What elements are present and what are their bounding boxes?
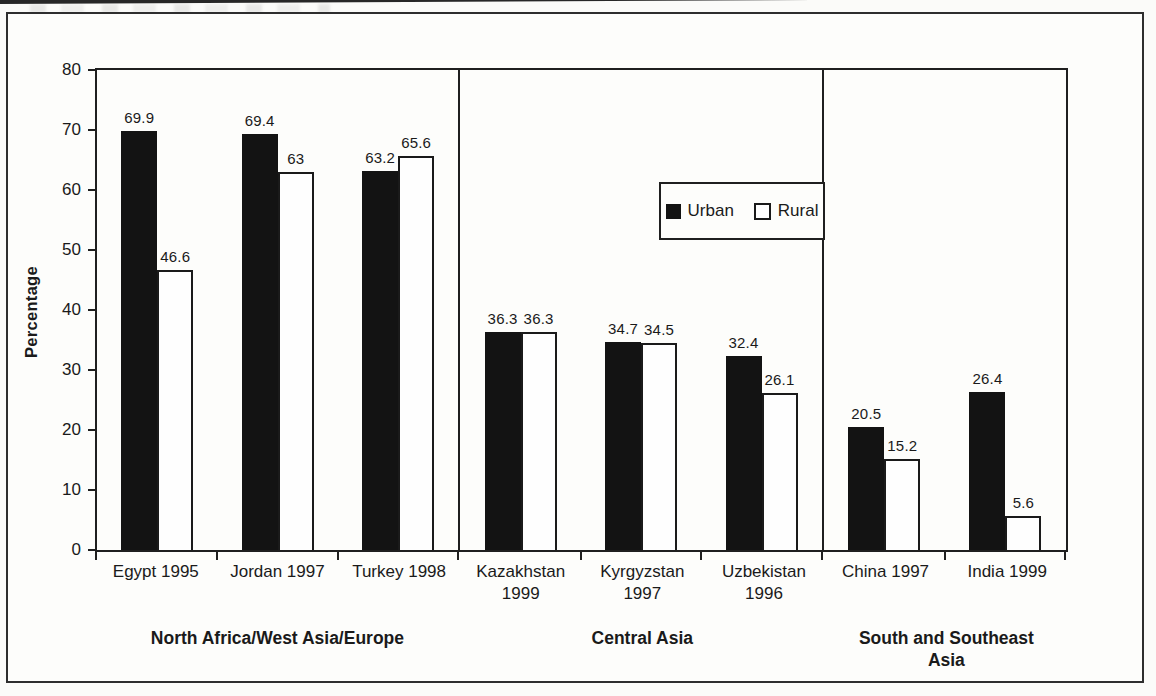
- bar-value-label: 63: [287, 150, 304, 167]
- y-axis-tick: 20: [35, 420, 97, 440]
- y-axis-tick: 60: [35, 180, 97, 200]
- urban-bar-wrap: 36.3: [485, 70, 521, 550]
- urban-bar-wrap: 69.9: [121, 70, 157, 550]
- bar-pair: 63.265.6: [362, 70, 434, 550]
- urban-bar-wrap: 63.2: [362, 70, 398, 550]
- y-tick-label: 0: [72, 540, 81, 560]
- rural-bar: [1005, 516, 1041, 550]
- bar-pair: 69.946.6: [121, 70, 193, 550]
- urban-bar-wrap: 20.5: [848, 70, 884, 550]
- category-group: China 1997India 1999: [825, 561, 1068, 605]
- rural-bar-wrap: 65.6: [398, 70, 434, 550]
- bar-value-label: 26.4: [972, 370, 1002, 387]
- rural-bar-wrap: 5.6: [1005, 70, 1041, 550]
- category-label: Kazakhstan 1999: [460, 561, 582, 605]
- category-label: Turkey 1998: [338, 561, 460, 605]
- bar-value-label: 46.6: [160, 248, 190, 265]
- urban-bar-wrap: 69.4: [242, 70, 278, 550]
- bar-value-label: 65.6: [401, 134, 431, 151]
- y-tick-label: 50: [62, 240, 81, 260]
- urban-bar: [726, 356, 762, 550]
- urban-bar: [242, 134, 278, 550]
- category-group: Kazakhstan 1999Kyrgyzstan 1997Uzbekistan…: [460, 561, 825, 605]
- y-tick-label: 10: [62, 480, 81, 500]
- rural-bar-wrap: 63: [278, 70, 314, 550]
- bar-value-label: 5.6: [1013, 494, 1034, 511]
- rural-bar: [641, 343, 677, 550]
- y-tick-mark: [88, 489, 97, 491]
- y-tick-label: 30: [62, 360, 81, 380]
- urban-bar-wrap: 26.4: [969, 70, 1005, 550]
- category-slot: 63.265.6: [338, 70, 458, 550]
- y-tick-label: 60: [62, 180, 81, 200]
- urban-bar: [605, 342, 641, 550]
- bar-pair: 32.426.1: [726, 70, 798, 550]
- bar-value-label: 36.3: [524, 310, 554, 327]
- group-label: South and Southeast Asia: [825, 628, 1068, 672]
- rural-swatch-icon: [754, 203, 771, 220]
- bar-groups-container: 69.946.669.46363.265.636.336.334.734.532…: [97, 70, 1066, 550]
- rural-bar-wrap: 15.2: [884, 70, 920, 550]
- y-tick-mark: [88, 129, 97, 131]
- rural-bar-wrap: 46.6: [157, 70, 193, 550]
- bar-value-label: 32.4: [729, 334, 759, 351]
- y-axis-tick: 0: [35, 540, 97, 560]
- y-axis-tick: 50: [35, 240, 97, 260]
- y-tick-mark: [88, 189, 97, 191]
- rural-bar: [278, 172, 314, 550]
- y-axis-tick: 30: [35, 360, 97, 380]
- rural-bar: [762, 393, 798, 550]
- bar-value-label: 63.2: [365, 149, 395, 166]
- y-tick-mark: [88, 369, 97, 371]
- y-tick-mark: [88, 249, 97, 251]
- legend: Urban Rural: [659, 182, 825, 240]
- bar-pair: 36.336.3: [485, 70, 557, 550]
- bar-value-label: 36.3: [488, 310, 518, 327]
- urban-bar: [969, 392, 1005, 550]
- category-label: Jordan 1997: [217, 561, 339, 605]
- bar-pair: 34.734.5: [605, 70, 677, 550]
- rural-bar-wrap: 26.1: [762, 70, 798, 550]
- y-axis-tick: 10: [35, 480, 97, 500]
- rural-bar: [884, 459, 920, 550]
- urban-bar: [485, 332, 521, 550]
- bar-pair: 20.515.2: [848, 70, 920, 550]
- y-tick-mark: [88, 309, 97, 311]
- bar-value-label: 34.5: [644, 321, 674, 338]
- urban-bar: [121, 131, 157, 550]
- y-tick-mark: [88, 69, 97, 71]
- bar-pair: 26.45.6: [969, 70, 1041, 550]
- legend-urban-label: Urban: [688, 201, 734, 221]
- bar-value-label: 15.2: [887, 437, 917, 454]
- category-slot: 20.515.2: [824, 70, 945, 550]
- rural-bar: [521, 332, 557, 550]
- scan-edge-artifact: [0, 0, 1156, 4]
- category-slot: 32.426.1: [701, 70, 821, 550]
- bar-pair: 69.463: [242, 70, 314, 550]
- urban-bar-wrap: 32.4: [726, 70, 762, 550]
- group-label: Central Asia: [460, 628, 825, 672]
- category-label: India 1999: [946, 561, 1068, 605]
- rural-bar: [157, 270, 193, 550]
- urban-swatch-icon: [666, 204, 681, 219]
- category-labels-row: Egypt 1995Jordan 1997Turkey 1998Kazakhst…: [95, 561, 1068, 605]
- category-slot: 34.734.5: [581, 70, 701, 550]
- legend-item-urban: Urban: [666, 201, 734, 221]
- y-axis-tick: 80: [35, 60, 97, 80]
- bar-value-label: 20.5: [851, 405, 881, 422]
- bar-value-label: 26.1: [765, 371, 795, 388]
- category-slot: 36.336.3: [460, 70, 580, 550]
- y-tick-mark: [88, 549, 97, 551]
- category-slot: 26.45.6: [945, 70, 1066, 550]
- y-axis-tick: 70: [35, 120, 97, 140]
- y-tick-label: 20: [62, 420, 81, 440]
- y-tick-mark: [88, 429, 97, 431]
- category-label: Kyrgyzstan 1997: [582, 561, 704, 605]
- category-label: China 1997: [825, 561, 947, 605]
- urban-bar-wrap: 34.7: [605, 70, 641, 550]
- group-labels-row: North Africa/West Asia/EuropeCentral Asi…: [95, 628, 1068, 672]
- category-label: Uzbekistan 1996: [703, 561, 825, 605]
- rural-bar-wrap: 34.5: [641, 70, 677, 550]
- group-label: North Africa/West Asia/Europe: [95, 628, 460, 672]
- bar-group: 20.515.226.45.6: [824, 70, 1066, 550]
